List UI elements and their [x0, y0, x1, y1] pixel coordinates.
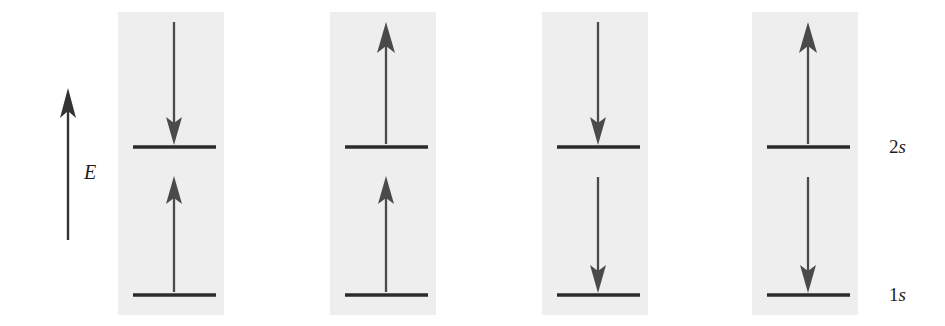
- panel-absorption-emission: [118, 12, 224, 315]
- level-label-2s-orbital: s: [899, 136, 906, 157]
- energy-axis-label: E: [84, 162, 96, 182]
- panel-absorption-decay: [542, 12, 648, 315]
- level-label-1s-orbital: s: [899, 284, 906, 305]
- level-label-2s: 2s: [889, 137, 906, 156]
- panel-background: [118, 12, 224, 315]
- panel-emission-decay: [752, 12, 858, 315]
- energy-axis: [60, 88, 76, 240]
- diagram-canvas: [0, 0, 945, 326]
- level-label-1s-number: 1: [889, 284, 899, 305]
- energy-level-diagram: E 2s 1s: [0, 0, 945, 326]
- panel-emission-excitation: [330, 12, 436, 315]
- level-label-1s: 1s: [889, 285, 906, 304]
- level-label-2s-number: 2: [889, 136, 899, 157]
- panel-background: [330, 12, 436, 315]
